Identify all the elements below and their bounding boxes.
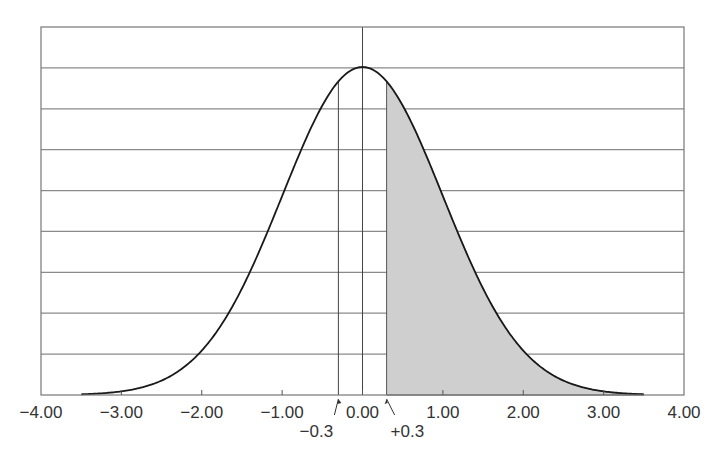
x-tick-label: −4.00 <box>19 403 62 422</box>
x-tick-label: −1.00 <box>261 403 304 422</box>
annotation-label: −0.3 <box>300 422 334 441</box>
x-tick-label: −3.00 <box>100 403 143 422</box>
reference-lines <box>338 27 362 395</box>
x-tick-label: 1.00 <box>426 403 459 422</box>
x-tick-label: 0.00 <box>346 403 379 422</box>
x-tick-label: 4.00 <box>667 403 700 422</box>
normal-distribution-chart: −4.00−3.00−2.00−1.000.001.002.003.004.00… <box>0 0 724 455</box>
x-tick-label: −2.00 <box>180 403 223 422</box>
shaded-area-right-of-plus-0.3 <box>387 81 644 395</box>
annotation-arrow <box>334 399 338 415</box>
annotation-arrow <box>387 399 395 415</box>
x-tick-label: 3.00 <box>587 403 620 422</box>
x-axis-tick-labels: −4.00−3.00−2.00−1.000.001.002.003.004.00 <box>19 403 700 422</box>
x-tick-label: 2.00 <box>507 403 540 422</box>
annotation-label: +0.3 <box>391 422 425 441</box>
